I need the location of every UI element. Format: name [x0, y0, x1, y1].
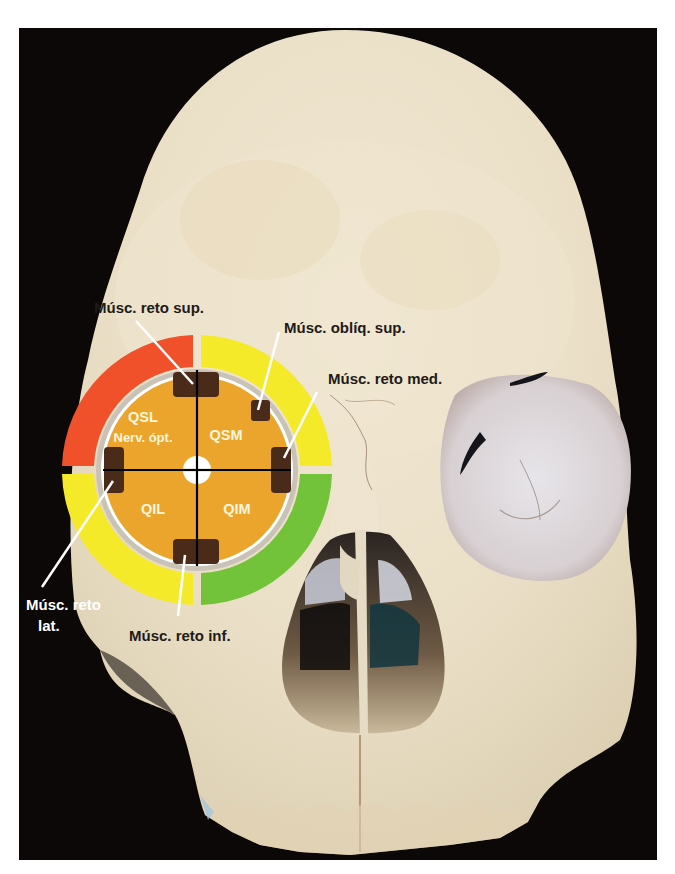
label-rectus-medial: Músc. reto med. [328, 370, 442, 387]
left-orbit [440, 375, 631, 581]
label-rectus-lateral-line2: lat. [38, 617, 60, 634]
label-rectus-lateral-line1: Músc. reto [26, 596, 101, 613]
optic-nerve-label: Nerv. ópt. [114, 430, 173, 445]
quadrant-label-qsm: QSM [209, 427, 242, 443]
skull-photo-figure: QSL Nerv. ópt. QSM QIL QIM Músc. reto su… [19, 28, 657, 860]
label-rectus-inferior: Músc. reto inf. [129, 627, 231, 644]
label-rectus-superior: Músc. reto sup. [94, 299, 204, 316]
quadrant-label-qsl: QSL [128, 409, 158, 425]
skull-illustration: QSL Nerv. ópt. QSM QIL QIM Músc. reto su… [19, 28, 657, 860]
label-oblique-superior: Músc. oblíq. sup. [284, 319, 406, 336]
quadrant-label-qil: QIL [141, 501, 165, 517]
quadrant-label-qim: QIM [223, 501, 250, 517]
